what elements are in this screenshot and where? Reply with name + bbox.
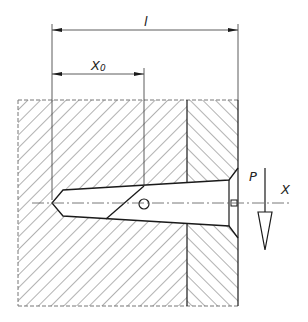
label-position: X0 bbox=[90, 58, 106, 73]
label-force: P bbox=[249, 169, 257, 184]
pivot-circle bbox=[139, 199, 149, 209]
diagram-canvas: l X0 P X bbox=[0, 0, 308, 322]
label-position-sub: 0 bbox=[100, 63, 106, 73]
label-length: l bbox=[144, 14, 148, 29]
force-arrow-p bbox=[258, 168, 272, 250]
label-axis: X bbox=[280, 182, 291, 197]
